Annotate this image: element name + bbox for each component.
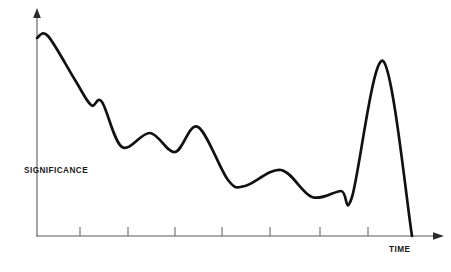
significance-curve — [37, 33, 412, 236]
time-axis — [36, 232, 444, 240]
significance-time-line-chart: SIGNIFICANCE TIME — [0, 0, 451, 272]
arrow-right-icon — [433, 232, 444, 240]
significance-axis — [33, 8, 41, 236]
y-axis-label: SIGNIFICANCE — [24, 166, 88, 175]
arrow-up-icon — [33, 8, 41, 18]
x-axis-label: TIME — [389, 245, 410, 254]
x-axis-ticks — [80, 227, 368, 236]
chart-figure: SIGNIFICANCE TIME — [0, 0, 451, 272]
